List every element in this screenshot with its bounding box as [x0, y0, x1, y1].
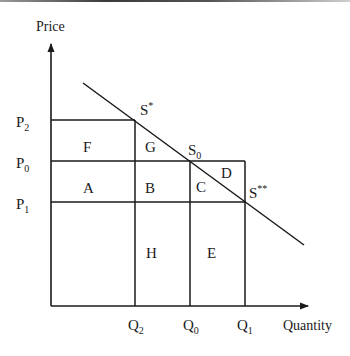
- region-e: E: [207, 245, 216, 261]
- point-s-star: S*: [140, 100, 153, 118]
- quantity-tick-q1: Q1: [237, 317, 253, 336]
- region-g: G: [145, 139, 156, 155]
- region-h: H: [146, 245, 157, 261]
- region-b: B: [145, 180, 155, 196]
- region-a: A: [83, 180, 94, 196]
- price-tick-p1: P1: [16, 196, 29, 215]
- region-c: C: [196, 179, 206, 195]
- supply-curve: [83, 83, 304, 245]
- price-tick-p2: P2: [16, 114, 29, 133]
- region-f: F: [83, 139, 91, 155]
- region-d: D: [221, 165, 232, 181]
- point-s-double-star: S**: [249, 183, 267, 201]
- price-quantity-diagram: Price Quantity P2 P0 P1 Q2 Q0 Q1 S* S0 S…: [0, 0, 350, 356]
- x-axis-label: Quantity: [283, 318, 332, 333]
- price-tick-p0: P0: [16, 155, 29, 174]
- point-s-zero: S0: [188, 142, 201, 161]
- quantity-tick-q0: Q0: [183, 317, 199, 336]
- quantity-tick-q2: Q2: [128, 317, 144, 336]
- y-axis-label: Price: [36, 19, 65, 34]
